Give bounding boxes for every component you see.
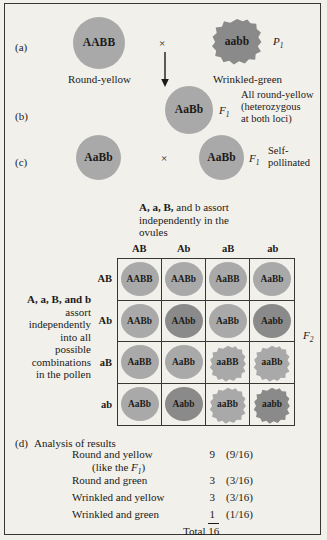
self-pollinated-note: Self- pollinated bbox=[268, 145, 310, 169]
punnett-cell-aabb-15: aabb bbox=[250, 384, 294, 426]
punnett-cell-aabb-5: AAbb bbox=[162, 301, 206, 343]
punnett-cell-genotype: AAbb bbox=[172, 316, 196, 326]
f2-generation-label: F2 bbox=[303, 329, 313, 344]
cross-symbol-c: × bbox=[161, 152, 167, 164]
f1-note-line2: (heterozygous bbox=[241, 101, 314, 113]
punnett-cell-aabb-8: AaBB bbox=[118, 342, 162, 384]
punnett-cell-aabb-0: AABB bbox=[118, 259, 162, 301]
pollen-note-line7: in the pollen bbox=[13, 368, 91, 381]
punnett-cell-aabb-11: aaBb bbox=[250, 342, 294, 384]
punnett-cell-aabb-2: AaBB bbox=[206, 259, 250, 301]
seed-round-yellow: AaBb bbox=[253, 262, 291, 296]
analysis-row-fraction: (3/16) bbox=[226, 491, 253, 503]
punnett-cell-aabb-12: AaBb bbox=[118, 384, 162, 426]
ovule-alleles: A, a, B, bbox=[139, 201, 174, 213]
punnett-cell-aabb-1: AABb bbox=[162, 259, 206, 301]
analysis-subnote-prefix: (like the bbox=[92, 461, 131, 473]
analysis-row-phenotype: Wrinkled and green bbox=[72, 508, 159, 520]
f1-parent-right-genotype: AaBb bbox=[207, 152, 236, 164]
self-pollinated-line2: pollinated bbox=[268, 157, 310, 169]
analysis-row-phenotype: Wrinkled and yellow bbox=[72, 491, 164, 503]
cross-symbol-a: × bbox=[159, 37, 165, 49]
seed-round-yellow: AaBb bbox=[121, 387, 159, 421]
ovule-note-line2: independently in the bbox=[139, 214, 309, 227]
analysis-row-fraction: (3/16) bbox=[226, 474, 253, 486]
punnett-square: AABBAABbAaBBAaBbAABbAAbbAaBbAabbAaBBAaBb… bbox=[117, 258, 295, 426]
pollen-assortment-note: A, a, B, and b assort independently into… bbox=[13, 293, 91, 381]
panel-c-letter: (c) bbox=[15, 156, 27, 168]
pollen-note-line6: combinations bbox=[13, 356, 91, 369]
punnett-cell-genotype: AaBB bbox=[216, 274, 240, 284]
punnett-cell-aabb-13: Aabb bbox=[162, 384, 206, 426]
punnett-cell-aabb-3: AaBb bbox=[250, 259, 294, 301]
ovule-assortment-note: A, a, B, and b assort independently in t… bbox=[139, 201, 309, 239]
seed-round-green: Aabb bbox=[165, 387, 203, 421]
punnett-cell-genotype: AABb bbox=[127, 316, 152, 326]
punnett-cell-aabb-4: AABb bbox=[118, 301, 162, 343]
punnett-cell-aabb-14: aaBb bbox=[206, 384, 250, 426]
punnett-cell-aabb-7: Aabb bbox=[250, 301, 294, 343]
punnett-cell-genotype: AaBb bbox=[172, 357, 195, 367]
analysis-row-count: 1 bbox=[201, 508, 215, 520]
punnett-cell-genotype: aaBb bbox=[262, 357, 283, 367]
p1-generation-label: P1 bbox=[273, 35, 283, 50]
punnett-cell-genotype: AaBB bbox=[128, 357, 152, 367]
down-arrow-icon bbox=[158, 52, 172, 88]
analysis-row-count: 3 bbox=[201, 474, 215, 486]
analysis-row-phenotype: Round and green bbox=[72, 474, 147, 486]
f1-parent-left-genotype: AaBb bbox=[84, 152, 113, 164]
analysis-row-fraction: (9/16) bbox=[226, 448, 253, 460]
analysis-total: Total 16 bbox=[183, 525, 219, 537]
seed-wrinkled-green: aabb bbox=[253, 387, 291, 421]
seed-round-yellow: AaBB bbox=[209, 262, 247, 296]
f1-genotype: AaBb bbox=[175, 104, 204, 116]
panel-b-letter: (b) bbox=[15, 110, 28, 122]
panel-a-letter: (a) bbox=[15, 41, 27, 53]
analysis-row-fraction: (1/16) bbox=[226, 508, 253, 520]
seed-round-yellow: AABB bbox=[121, 262, 159, 296]
punnett-cell-aabb-9: AaBb bbox=[162, 342, 206, 384]
pollen-note-line2: assort bbox=[13, 306, 91, 319]
punnett-row-header-Ab: Ab bbox=[90, 315, 112, 326]
seed-round-green: Aabb bbox=[253, 304, 291, 338]
seed-wrinkled-yellow: aaBb bbox=[209, 387, 247, 421]
punnett-cell-aabb-6: AaBb bbox=[206, 301, 250, 343]
seed-round-green: AAbb bbox=[165, 304, 203, 338]
parent1-genotype: AABB bbox=[83, 37, 115, 49]
punnett-row-header-AB: AB bbox=[90, 273, 112, 284]
parent2-seed: aabb bbox=[211, 18, 263, 66]
punnett-cell-genotype: AABb bbox=[171, 274, 196, 284]
f1-note-line3: at both loci) bbox=[241, 113, 314, 125]
analysis-row-phenotype: Round and yellow bbox=[72, 448, 153, 460]
seed-round-yellow: AaBb bbox=[165, 345, 203, 379]
punnett-cell-genotype: Aabb bbox=[261, 316, 283, 326]
seed-wrinkled-yellow: aaBb bbox=[253, 345, 291, 379]
parent1-phenotype: Round-yellow bbox=[47, 73, 152, 86]
seed-wrinkled-yellow: aaBB bbox=[209, 345, 247, 379]
ovule-note-line1: A, a, B, and b assort bbox=[139, 201, 309, 214]
ovule-note-line1-suffix: and b assort bbox=[174, 201, 229, 213]
parent1-seed: AABB bbox=[73, 17, 125, 69]
ovule-note-line3: ovules bbox=[139, 226, 309, 239]
punnett-col-header-Ab: Ab bbox=[162, 243, 206, 254]
f1-note: All round-yellow (heterozygous at both l… bbox=[241, 89, 314, 124]
f1-note-line1: All round-yellow bbox=[241, 89, 314, 101]
seed-round-yellow: AABb bbox=[121, 304, 159, 338]
pollen-note-line5: possible bbox=[13, 343, 91, 356]
punnett-cell-genotype: Aabb bbox=[173, 399, 195, 409]
punnett-cell-genotype: AaBb bbox=[261, 274, 284, 284]
punnett-row-header-ab: ab bbox=[90, 399, 112, 410]
parent2-genotype: aabb bbox=[225, 36, 250, 48]
seed-round-yellow: AaBB bbox=[121, 345, 159, 379]
punnett-row-header-aB: aB bbox=[90, 357, 112, 368]
figure-panel: (a) AABB Round-yellow × aabb P1 Wrinkled… bbox=[4, 3, 321, 535]
analysis-row-count: 3 bbox=[201, 491, 215, 503]
punnett-col-header-AB: AB bbox=[117, 243, 161, 254]
pollen-note-line3: independently bbox=[13, 318, 91, 331]
seed-round-yellow: AaBb bbox=[209, 304, 247, 338]
f1-generation-label: F1 bbox=[219, 104, 229, 119]
analysis-subnote-generation: F bbox=[131, 461, 138, 473]
punnett-cell-genotype: AaBb bbox=[128, 399, 151, 409]
f1-parent-left-seed: AaBb bbox=[76, 135, 121, 180]
punnett-cell-aabb-10: aaBB bbox=[206, 342, 250, 384]
